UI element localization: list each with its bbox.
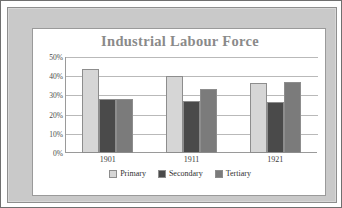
bar xyxy=(267,102,284,153)
y-axis-tick-labels: 50%40%30%20%10%0% xyxy=(33,57,63,153)
chart-legend: PrimarySecondaryTertiary xyxy=(33,169,327,178)
x-axis-category-label: 1901 xyxy=(66,155,150,164)
picture-frame-mat: Industrial Labour Force 50%40%30%20%10%0… xyxy=(7,7,337,203)
bar xyxy=(250,83,267,153)
legend-item[interactable]: Secondary xyxy=(158,169,203,178)
legend-item[interactable]: Primary xyxy=(109,169,146,178)
y-axis-tick-label: 0% xyxy=(35,149,63,158)
bar xyxy=(99,99,116,153)
legend-label: Tertiary xyxy=(226,169,251,178)
bar xyxy=(284,82,301,153)
y-axis-tick-label: 30% xyxy=(35,91,63,100)
plot-wrapper: 50%40%30%20%10%0% 190119111921 PrimarySe… xyxy=(33,55,327,197)
bar xyxy=(183,101,200,153)
x-axis-category-label: 1911 xyxy=(150,155,234,164)
legend-label: Secondary xyxy=(169,169,203,178)
x-axis-category-labels: 190119111921 xyxy=(65,155,317,167)
legend-label: Primary xyxy=(120,169,146,178)
bar xyxy=(116,99,133,153)
bar xyxy=(200,89,217,153)
picture-frame-outer: Industrial Labour Force 50%40%30%20%10%0… xyxy=(0,0,342,208)
x-axis-category-label: 1921 xyxy=(233,155,317,164)
chart-title: Industrial Labour Force xyxy=(33,33,327,50)
y-axis-tick-label: 20% xyxy=(35,110,63,119)
bar xyxy=(82,69,99,153)
legend-swatch-icon xyxy=(215,170,223,178)
y-axis-tick-label: 50% xyxy=(35,53,63,62)
bars-layer xyxy=(66,57,317,153)
legend-swatch-icon xyxy=(109,170,117,178)
chart-card: Industrial Labour Force 50%40%30%20%10%0… xyxy=(32,28,326,196)
bar xyxy=(166,76,183,153)
legend-item[interactable]: Tertiary xyxy=(215,169,251,178)
legend-swatch-icon xyxy=(158,170,166,178)
y-axis-tick-label: 10% xyxy=(35,129,63,138)
y-axis-tick-label: 40% xyxy=(35,72,63,81)
